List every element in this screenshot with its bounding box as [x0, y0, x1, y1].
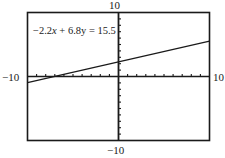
constant-c: 15.5: [97, 25, 115, 36]
op-equals: =: [86, 25, 97, 36]
op-plus: +: [57, 25, 68, 36]
x-min-label: −10: [2, 72, 19, 83]
coef-b: 6.8: [68, 25, 81, 36]
y-max-label: 10: [109, 0, 120, 11]
coef-a: −2.2: [33, 25, 52, 36]
equation-label: −2.2x + 6.8y = 15.5: [33, 25, 116, 36]
y-min-label: −10: [107, 145, 124, 156]
graph-window: [0, 0, 225, 158]
x-max-label: 10: [213, 72, 224, 83]
